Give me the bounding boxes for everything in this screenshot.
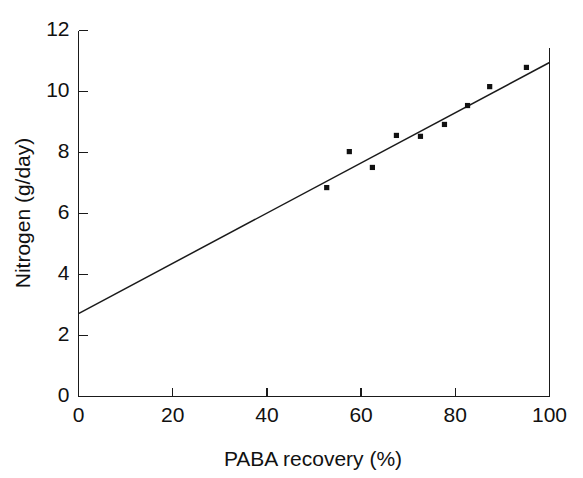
data-point	[370, 165, 375, 170]
plot-background	[0, 0, 583, 478]
y-tick-label: 6	[58, 200, 70, 223]
x-tick-label: 0	[73, 403, 85, 426]
y-axis-title: Nitrogen (g/day)	[11, 138, 34, 289]
x-axis-title: PABA recovery (%)	[224, 447, 402, 470]
data-point	[524, 65, 529, 70]
y-tick-label: 12	[46, 17, 69, 40]
data-point	[442, 122, 447, 127]
figure-root: 024681012 020406080100 PABA recovery (%)…	[0, 0, 583, 478]
data-point	[487, 84, 492, 89]
y-tick-label: 2	[58, 322, 70, 345]
data-point	[347, 149, 352, 154]
data-point	[418, 134, 423, 139]
data-point	[394, 133, 399, 138]
y-tick-label: 10	[46, 78, 69, 101]
x-tick-label: 60	[349, 403, 372, 426]
x-tick-label: 80	[444, 403, 467, 426]
y-tick-label: 8	[58, 139, 70, 162]
scatter-plot: 024681012 020406080100 PABA recovery (%)…	[0, 0, 583, 478]
x-tick-label: 40	[255, 403, 278, 426]
x-tick-label: 20	[161, 403, 184, 426]
y-tick-label: 0	[58, 383, 70, 406]
data-point	[324, 185, 329, 190]
y-tick-label: 4	[58, 261, 70, 284]
data-point	[465, 103, 470, 108]
x-tick-label: 100	[532, 403, 567, 426]
